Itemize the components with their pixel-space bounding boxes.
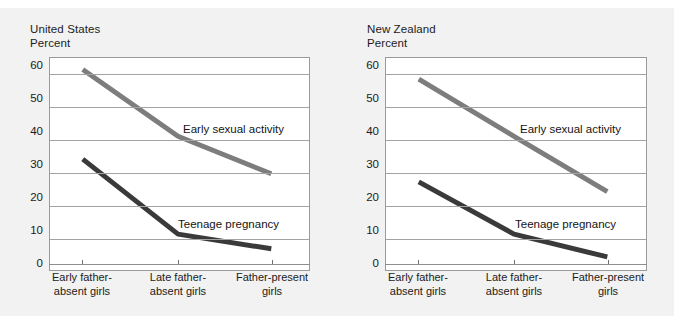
gridline xyxy=(386,140,646,141)
gridline xyxy=(50,173,309,174)
annotation-early-sexual-activity-us: Early sexual activity xyxy=(183,123,284,136)
x-axis-line xyxy=(49,264,310,265)
gridline xyxy=(50,140,309,141)
y-axis-tick-label: 30 xyxy=(17,158,43,170)
y-axis-tick-label: 20 xyxy=(353,191,379,203)
gridline xyxy=(386,74,646,75)
annotation-early-sexual-activity-nz: Early sexual activity xyxy=(520,123,621,136)
y-axis-tick-label: 10 xyxy=(353,224,379,236)
annotation-teenage-pregnancy-us: Teenage pregnancy xyxy=(178,218,279,231)
x-axis-category-label: Father-present girls xyxy=(554,271,662,298)
gridline xyxy=(386,206,646,207)
x-axis-category-label: Late father- absent girls xyxy=(124,271,232,298)
x-axis-category-label: Father-present girls xyxy=(218,271,326,298)
panel-title-new-zealand: New Zealand xyxy=(367,22,436,36)
gridline xyxy=(50,206,309,207)
gridline xyxy=(50,74,309,75)
x-axis-category-label: Early father- absent girls xyxy=(364,271,472,298)
gridline xyxy=(50,239,309,240)
x-axis-category-label: Late father- absent girls xyxy=(460,271,568,298)
plot-area-united-states xyxy=(49,57,310,271)
y-axis-tick-label: 40 xyxy=(353,125,379,137)
y-axis-tick-label: 50 xyxy=(17,92,43,104)
x-axis-category-label: Early father- absent girls xyxy=(28,271,136,298)
panel-title-united-states: United States xyxy=(30,22,100,36)
gridline xyxy=(386,107,646,108)
data-series-early-sexual-activity xyxy=(83,69,272,173)
y-axis-unit-new-zealand: Percent xyxy=(367,36,407,50)
panel-united-states: United States Percent 0102030405060 Earl… xyxy=(0,8,337,316)
y-axis-tick-label: 60 xyxy=(17,59,43,71)
figure-root: United States Percent 0102030405060 Earl… xyxy=(0,0,674,323)
y-axis-tick-label: 40 xyxy=(17,125,43,137)
gridline xyxy=(386,239,646,240)
y-axis-tick-label: 60 xyxy=(353,59,379,71)
y-axis-tick-label: 20 xyxy=(17,191,43,203)
y-axis-unit-united-states: Percent xyxy=(30,36,70,50)
gridline xyxy=(386,173,646,174)
y-axis-tick-label: 50 xyxy=(353,92,379,104)
plot-area-new-zealand xyxy=(385,57,647,271)
y-axis-tick-label: 30 xyxy=(353,158,379,170)
annotation-teenage-pregnancy-nz: Teenage pregnancy xyxy=(515,218,616,231)
gridline xyxy=(50,107,309,108)
panel-new-zealand: New Zealand Percent 0102030405060 Early … xyxy=(337,8,674,316)
y-axis-tick-label: 0 xyxy=(17,257,43,269)
y-axis-tick-label: 10 xyxy=(17,224,43,236)
x-axis-line xyxy=(385,264,647,265)
y-axis-tick-label: 0 xyxy=(353,257,379,269)
